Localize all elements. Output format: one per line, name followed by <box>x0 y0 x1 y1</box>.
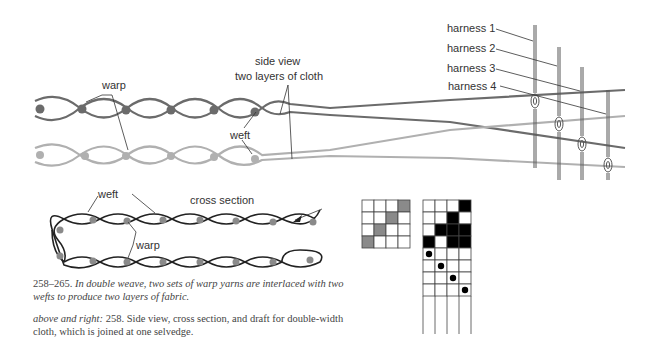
cross-section: weft cross section warp <box>51 188 323 268</box>
cross-section-title: cross section <box>190 194 254 206</box>
treadling-cell <box>447 284 459 296</box>
harness-leaders <box>496 29 606 114</box>
tieup-cell-empty <box>423 212 435 224</box>
side-view-label: side view <box>255 55 300 67</box>
tieup-cell-empty <box>362 200 374 212</box>
harness-3 <box>578 67 586 180</box>
harnesses <box>531 25 612 180</box>
warp-label: warp <box>101 79 126 91</box>
treadling-cell <box>459 260 471 272</box>
tieup-cell-filled <box>447 212 459 224</box>
tieup-cell-empty <box>398 224 410 236</box>
tieup-cell-empty <box>398 212 410 224</box>
cross-weft-label: weft <box>97 188 118 200</box>
tieup-cell-empty <box>362 224 374 236</box>
tieup-cell-filled <box>459 224 471 236</box>
tieup-cell-empty <box>374 236 386 248</box>
tieup-cell-filled <box>459 200 471 212</box>
treadling-dot <box>426 251 432 257</box>
draft-tieup-small <box>362 200 410 248</box>
tieup-cell-empty <box>435 200 447 212</box>
tieup-cell-empty <box>435 236 447 248</box>
harness-1-label: harness 1 <box>447 22 495 34</box>
treadling-cell <box>447 248 459 260</box>
treadling-cell <box>459 248 471 260</box>
harness-2-label: harness 2 <box>447 42 495 54</box>
direction-arrow-icon <box>293 215 302 222</box>
tieup-cell-empty <box>386 200 398 212</box>
tieup-cell-filled <box>386 212 398 224</box>
reference-italic: above and right: <box>33 313 103 324</box>
reference-caption: above and right: 258. Side view, cross s… <box>33 312 358 338</box>
treadling-dot <box>438 263 444 269</box>
treadling-cell <box>423 272 435 284</box>
tieup-cell-empty <box>386 224 398 236</box>
tieup-cell-empty <box>398 236 410 248</box>
tieup-cell-empty <box>386 236 398 248</box>
treadling-dot <box>450 275 456 281</box>
treadling-cell <box>459 272 471 284</box>
treadling-dot <box>462 287 468 293</box>
treadling-cell <box>447 260 459 272</box>
tieup-cell-empty <box>447 200 459 212</box>
tieup-cell-filled <box>374 224 386 236</box>
treadling-cell <box>435 248 447 260</box>
tieup-cell-filled <box>435 224 447 236</box>
weft-label: weft <box>229 129 250 141</box>
tieup-cell-empty <box>423 200 435 212</box>
cross-warp-label: warp <box>135 239 160 251</box>
figure-text: In double weave, two sets of warp yarns … <box>33 278 344 302</box>
draft-tieup-large <box>423 200 471 334</box>
tieup-cell-empty <box>435 212 447 224</box>
tieup-cell-empty <box>362 212 374 224</box>
tieup-cell-filled <box>459 236 471 248</box>
tieup-cell-filled <box>447 236 459 248</box>
tieup-cell-filled <box>423 236 435 248</box>
figure-caption: 258–265. In double weave, two sets of wa… <box>33 277 358 303</box>
harness-4-label: harness 4 <box>448 80 496 92</box>
tieup-cell-filled <box>362 236 374 248</box>
tieup-cell-empty <box>374 200 386 212</box>
harness-1 <box>531 25 539 168</box>
harness-3-label: harness 3 <box>447 62 495 74</box>
treadling-cell <box>435 272 447 284</box>
treadling-cell <box>423 260 435 272</box>
treadling-cell <box>423 284 435 296</box>
tieup-cell-empty <box>423 224 435 236</box>
tieup-cell-empty <box>374 212 386 224</box>
tieup-cell-empty <box>459 212 471 224</box>
two-layers-label: two layers of cloth <box>235 70 323 82</box>
treadling-cell <box>435 284 447 296</box>
tieup-cell-filled <box>398 200 410 212</box>
harness-2 <box>555 47 563 180</box>
tieup-cell-filled <box>447 224 459 236</box>
figure-number: 258–265. <box>33 278 72 289</box>
